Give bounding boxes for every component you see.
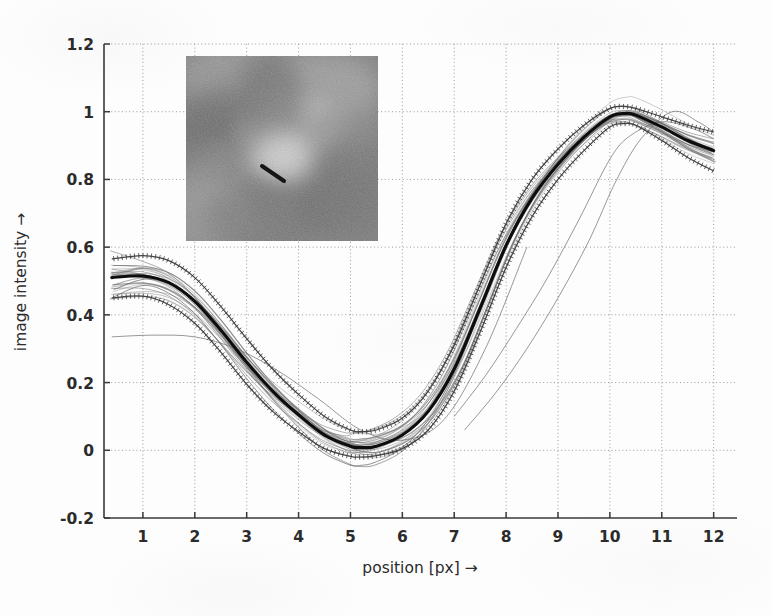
errorbar-tick — [347, 453, 348, 458]
errorbar-tick — [114, 295, 115, 300]
x-axis-ticks — [143, 512, 714, 518]
errorbar-tick — [130, 254, 131, 259]
inset-fundus-image — [155, 37, 401, 252]
errorbar-tick — [338, 451, 339, 456]
x-tick-label: 4 — [293, 528, 304, 546]
errorbar-tick — [372, 454, 373, 459]
x-tick-label: 1 — [138, 528, 149, 546]
y-axis-tick-labels: -0.200.20.40.60.811.2 — [60, 36, 94, 528]
errorbar-tick — [380, 452, 381, 457]
y-tick-label: 0.2 — [67, 375, 94, 393]
x-axis-title: position [px] → — [362, 559, 477, 577]
y-axis-ticks — [104, 44, 110, 518]
y-tick-label: 0 — [83, 442, 94, 460]
errorbar-tick — [113, 256, 114, 261]
ensemble-outlier-curve — [454, 122, 713, 417]
y-tick-label: 0.8 — [67, 171, 94, 189]
y-axis-title: image intensity → — [12, 213, 30, 351]
x-tick-label: 6 — [397, 528, 408, 546]
x-tick-label: 8 — [501, 528, 512, 546]
errorbar-tick — [151, 295, 152, 300]
x-tick-label: 11 — [651, 528, 673, 546]
errorbar-tick — [711, 129, 712, 134]
errorbar-tick — [122, 294, 123, 299]
errorbar-tick — [354, 429, 355, 434]
inset-image-content — [155, 37, 401, 252]
x-tick-label: 2 — [189, 528, 200, 546]
errorbar-tick — [118, 256, 119, 261]
inset-grain — [186, 56, 378, 241]
plot-canvas: 123456789101112 -0.200.20.40.60.811.2 po… — [0, 0, 772, 616]
x-tick-label: 12 — [703, 528, 725, 546]
x-axis-tick-labels: 123456789101112 — [138, 528, 725, 546]
intensity-profile-figure: 123456789101112 -0.200.20.40.60.811.2 po… — [0, 0, 772, 616]
errorbar-tick — [147, 294, 148, 299]
errorbar-tick — [707, 128, 708, 133]
x-tick-label: 3 — [241, 528, 252, 546]
errorbar-tick — [342, 452, 343, 457]
y-tick-label: 1.2 — [67, 36, 94, 54]
errorbar-tick — [143, 294, 144, 299]
y-tick-label: 0.6 — [67, 239, 94, 257]
errorbar-tick — [631, 105, 632, 110]
x-tick-label: 7 — [449, 528, 460, 546]
errorbar-tick — [699, 126, 700, 131]
errorbar-tick — [615, 104, 616, 109]
errorbar-tick — [122, 255, 123, 260]
errorbar-tick — [384, 452, 385, 457]
x-tick-label: 9 — [553, 528, 564, 546]
errorbar-tick — [695, 125, 696, 130]
x-tick-label: 10 — [599, 528, 621, 546]
errorbar-tick — [155, 254, 156, 259]
y-tick-label: -0.2 — [60, 510, 94, 528]
errorbar-tick — [126, 254, 127, 259]
errorbar-tick — [118, 295, 119, 300]
y-tick-label: 1 — [83, 104, 94, 122]
y-tick-label: 0.4 — [67, 307, 95, 325]
x-tick-label: 5 — [345, 528, 356, 546]
errorbar-tick — [151, 254, 152, 259]
errorbar-tick — [159, 255, 160, 260]
